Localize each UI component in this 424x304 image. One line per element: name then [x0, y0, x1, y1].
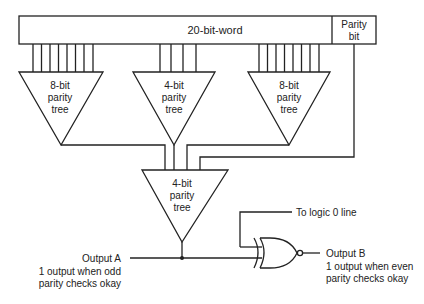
- parity-label-1: Parity: [341, 19, 367, 30]
- tree-label: tree: [51, 104, 69, 115]
- logic-zero-wire: [240, 212, 292, 247]
- xnor-gate: [240, 212, 320, 268]
- tree-label: parity: [170, 190, 194, 201]
- logic-line-label: To logic 0 line: [296, 207, 357, 218]
- parity-label-2: bit: [349, 31, 360, 42]
- output-a-desc: parity checks okay: [39, 278, 121, 289]
- tree-label: 8-bit: [279, 80, 299, 91]
- output-b-title: Output B: [326, 248, 366, 259]
- output-a-title: Output A: [82, 253, 121, 264]
- left-input-bars: [33, 44, 93, 72]
- output-b-desc: parity checks okay: [326, 273, 408, 284]
- left-tree-wire: [61, 145, 165, 170]
- word-label: 20-bit-word: [187, 24, 242, 36]
- parity-checker-diagram: 20-bit-word Parity bit 8-bit parity tree…: [0, 0, 424, 304]
- tree-label: tree: [173, 202, 191, 213]
- middle-input-bars: [160, 44, 196, 72]
- right-input-bars: [259, 44, 319, 72]
- parity-bit-wire: [200, 44, 354, 170]
- tree-label: parity: [48, 92, 72, 103]
- tree-label: tree: [165, 104, 183, 115]
- tree-label: parity: [277, 92, 301, 103]
- output-a-desc: 1 output when odd: [39, 266, 121, 277]
- tree-label: 4-bit: [164, 80, 184, 91]
- junction-dot: [180, 256, 184, 260]
- output-b-desc: 1 output when even: [326, 261, 413, 272]
- tree-label: tree: [280, 104, 298, 115]
- tree-label: parity: [162, 92, 186, 103]
- tree-label: 8-bit: [50, 80, 70, 91]
- tree-label: 4-bit: [172, 178, 192, 189]
